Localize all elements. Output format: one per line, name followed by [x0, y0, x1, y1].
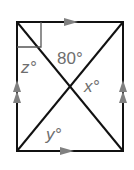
angle-label-80: 80° — [57, 49, 83, 68]
parallel-arrow-bottom-icon — [60, 147, 74, 155]
angle-label-x: x° — [83, 77, 100, 96]
double-arrow-left-icon — [13, 80, 21, 103]
double-arrow-right-icon — [119, 80, 127, 103]
rectangle-diagram: 80° z° x° y° — [0, 0, 134, 170]
angle-label-z: z° — [20, 58, 37, 77]
parallel-arrow-top-icon — [64, 18, 78, 26]
angle-label-y: y° — [45, 125, 62, 144]
